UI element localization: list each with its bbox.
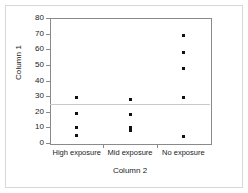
x-tick-label-0: High exposure [50, 149, 103, 157]
data-point [75, 112, 78, 115]
x-axis-title: Column 2 [50, 166, 210, 175]
category-separator [157, 144, 158, 148]
data-point [182, 34, 185, 37]
data-point [75, 96, 78, 99]
data-point [129, 113, 132, 116]
data-point [75, 134, 78, 137]
data-point [182, 51, 185, 54]
x-tick-label-2: No exposure [157, 149, 210, 157]
chart-figure: Column 1 01020304050607080 High exposure… [0, 0, 248, 193]
data-point [129, 98, 132, 101]
y-axis-title: Column 1 [14, 23, 23, 103]
data-point [182, 96, 185, 99]
data-point [129, 126, 132, 132]
data-point [182, 67, 185, 70]
category-separator [103, 144, 104, 148]
data-point [75, 126, 78, 129]
reference-line [50, 104, 210, 105]
data-point [182, 135, 185, 138]
x-tick-label-1: Mid exposure [103, 149, 156, 157]
